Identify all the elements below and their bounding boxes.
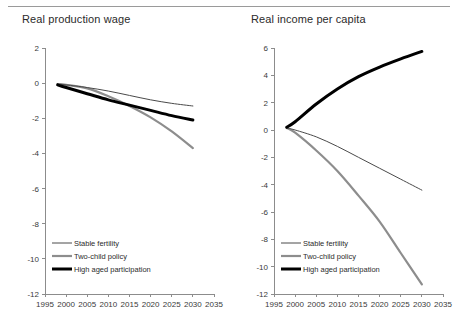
x-tick-label: 2000 [57,300,75,309]
x-tick-label: 2020 [371,300,389,309]
y-tick-label: -6 [32,185,40,194]
x-tick-label: 2010 [99,300,117,309]
y-tick-label: -8 [32,220,40,229]
y-tick-label: -4 [261,181,269,190]
panel-real-production-wage: Real production wage 20-2-4-6-8-10-12199… [0,0,229,319]
y-tick-label: 4 [264,71,269,80]
y-tick-label: 0 [264,126,269,135]
x-tick-label: 2000 [286,300,304,309]
y-tick-label: -4 [32,149,40,158]
legend-label: High aged participation [303,265,380,274]
legend-label: Stable fertility [74,239,119,248]
x-tick-label: 2025 [163,300,181,309]
figure: Real production wage 20-2-4-6-8-10-12199… [0,0,458,319]
y-tick-label: 2 [35,44,40,53]
x-tick-label: 2015 [350,300,368,309]
x-tick-label: 2025 [392,300,410,309]
x-tick-label: 1995 [265,300,283,309]
x-tick-label: 2015 [121,300,139,309]
series-line [287,128,422,284]
x-tick-label: 2030 [184,300,202,309]
y-tick-label: -8 [261,235,269,244]
panel-real-income-per-capita: Real income per capita 6420-2-4-6-8-10-1… [229,0,458,319]
x-tick-label: 2035 [434,300,452,309]
legend-label: High aged participation [74,265,151,274]
y-tick-label: 6 [264,44,269,53]
series-line [287,51,422,127]
y-tick-label: -10 [27,255,39,264]
x-tick-label: 2005 [78,300,96,309]
legend-label: Two-child policy [303,252,356,261]
x-tick-label: 1995 [36,300,54,309]
series-line [58,85,193,120]
y-tick-label: -12 [256,290,268,299]
x-tick-label: 2010 [328,300,346,309]
y-tick-label: -12 [27,290,39,299]
legend-label: Stable fertility [303,239,348,248]
y-tick-label: -2 [261,153,269,162]
legend-label: Two-child policy [74,252,127,261]
x-tick-label: 2005 [307,300,325,309]
y-tick-label: -6 [261,208,269,217]
plot-right: 6420-2-4-6-8-10-121995200020052010201520… [229,0,458,319]
x-tick-label: 2035 [205,300,223,309]
y-tick-label: -2 [32,114,40,123]
series-line [287,128,422,190]
x-tick-label: 2030 [413,300,431,309]
plot-left: 20-2-4-6-8-10-12199520002005201020152020… [0,0,229,319]
y-tick-label: 2 [264,99,269,108]
x-tick-label: 2020 [142,300,160,309]
y-tick-label: -10 [256,263,268,272]
y-tick-label: 0 [35,79,40,88]
